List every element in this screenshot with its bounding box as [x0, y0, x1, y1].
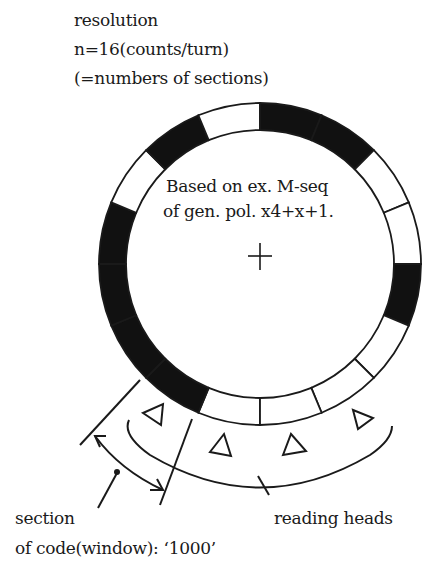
reading-head-2-icon — [210, 434, 231, 456]
reading-head-4-icon — [353, 410, 373, 429]
ring-section-5-mark — [99, 202, 136, 264]
ring-section-4-mark — [99, 264, 136, 326]
ring-section-12-space — [384, 202, 421, 264]
center-label-line-1: Based on ex. M-seq — [166, 174, 328, 198]
section-label-line-1: section — [15, 506, 75, 530]
center-label-line-2: of gen. pol. x4+x+1. — [163, 199, 334, 223]
window-boundary-right — [160, 419, 192, 505]
ring-section-1-space — [198, 388, 260, 425]
section-leader-dot — [114, 469, 120, 475]
ring-section-8-space — [198, 103, 260, 140]
reading-heads-label: reading heads — [274, 506, 393, 530]
reading-head-1-icon — [143, 404, 163, 425]
center-cross-icon — [248, 243, 272, 270]
section-label-line-2: of code(window): ‘1000’ — [15, 536, 216, 560]
reading-head-3-icon — [283, 434, 306, 455]
title-line-1: resolution — [74, 8, 158, 32]
window-span-arrow — [95, 436, 163, 490]
ring-section-16-space — [260, 388, 322, 425]
reading-heads-leader — [258, 476, 269, 495]
title-line-2: n=16(counts/turn) — [74, 37, 229, 61]
ring-section-13-mark — [384, 264, 421, 326]
section-leader — [98, 473, 117, 508]
ring-section-9-mark — [260, 103, 322, 140]
title-line-3: (=numbers of sections) — [74, 66, 269, 90]
